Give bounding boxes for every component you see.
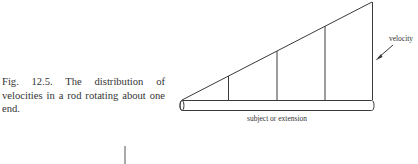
rod-pivot-end [180,101,184,111]
rod-label: subject or extension [247,114,307,123]
arrowhead-icon [376,54,383,61]
rod [180,101,374,111]
velocity-distribution-diagram: subject or extension velocity [0,0,418,164]
velocity-label: velocity [389,34,413,43]
